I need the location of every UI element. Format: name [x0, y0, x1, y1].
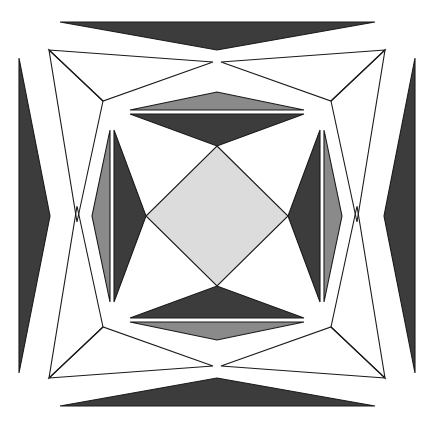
polyhedron-projection-svg	[0, 0, 433, 427]
figure-canvas	[0, 0, 433, 427]
